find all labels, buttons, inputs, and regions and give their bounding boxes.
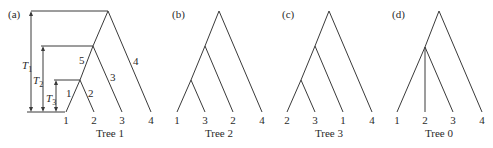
t3-arrow xyxy=(54,80,58,112)
leaf-label: 3 xyxy=(450,114,456,126)
branch-label-2: 2 xyxy=(88,87,94,99)
branch-label-3: 3 xyxy=(110,71,116,83)
branch-label-4: 4 xyxy=(133,55,139,67)
panel-label-d: (d) xyxy=(392,8,405,21)
time-label-t2: T2 xyxy=(33,74,43,89)
panel-label-c: (c) xyxy=(282,8,295,21)
leaf-label: 1 xyxy=(394,114,400,126)
branch-label-1: 1 xyxy=(66,87,72,99)
tree-3-edges xyxy=(287,11,372,112)
t1-arrow xyxy=(29,11,33,112)
panel-c: (c) 2 3 1 4 Tree 3 xyxy=(282,8,375,139)
leaf-label: 4 xyxy=(369,114,375,126)
tree-caption-3: Tree 3 xyxy=(315,127,344,139)
time-label-t3: T3 xyxy=(46,92,56,107)
leaf-label: 1 xyxy=(174,114,180,126)
leaf-label: 3 xyxy=(202,114,208,126)
panel-label-a: (a) xyxy=(8,8,21,21)
leaf-label: 4 xyxy=(259,114,265,126)
leaf-label: 4 xyxy=(479,114,485,126)
leaf-label: 2 xyxy=(422,114,428,126)
leaf-label: 3 xyxy=(312,114,318,126)
leaf-label: 1 xyxy=(340,114,346,126)
leaf-label: 1 xyxy=(63,114,69,126)
branch-label-5: 5 xyxy=(79,54,85,66)
leaf-label: 2 xyxy=(284,114,290,126)
tree-2-edges xyxy=(177,11,262,112)
tree-0-edges xyxy=(397,11,482,112)
leaf-label: 2 xyxy=(230,114,236,126)
phylogenetic-trees-figure: (a) T1 T2 T3 xyxy=(0,0,493,148)
t2-arrow xyxy=(41,46,45,112)
panel-label-b: (b) xyxy=(172,8,185,21)
tree-caption-0: Tree 0 xyxy=(425,127,454,139)
tree-caption-2: Tree 2 xyxy=(205,127,233,139)
leaf-label: 2 xyxy=(91,114,97,126)
tree-caption-1: Tree 1 xyxy=(96,127,124,139)
leaf-label: 3 xyxy=(119,114,125,126)
panel-b: (b) 1 3 2 4 Tree 2 xyxy=(172,8,265,139)
leaf-label: 4 xyxy=(148,114,154,126)
panel-d: (d) 1 2 3 4 Tree 0 xyxy=(392,8,485,139)
panel-a: (a) T1 T2 T3 xyxy=(8,8,154,139)
